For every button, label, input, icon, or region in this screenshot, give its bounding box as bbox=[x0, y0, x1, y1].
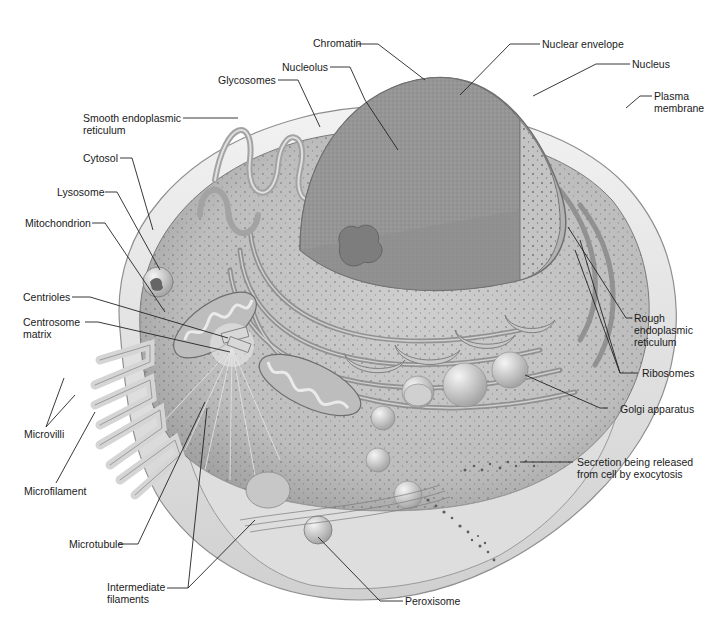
label-nucleus: Nucleus bbox=[632, 58, 670, 70]
label-intermediate-filaments: Intermediate filaments bbox=[107, 581, 165, 605]
nucleolus-blob bbox=[339, 225, 382, 266]
label-chromatin: Chromatin bbox=[313, 37, 361, 49]
label-glycosomes: Glycosomes bbox=[218, 74, 276, 86]
label-plasma-membrane-line2: membrane bbox=[654, 102, 704, 114]
lysosome bbox=[143, 267, 173, 297]
label-intermediate-filaments-line2: filaments bbox=[107, 593, 149, 605]
label-rough-er-line1: Rough bbox=[634, 312, 665, 324]
label-nucleolus: Nucleolus bbox=[282, 61, 328, 73]
label-golgi-apparatus: Golgi apparatus bbox=[620, 403, 694, 415]
cell-diagram: Chromatin Nuclear envelope Nucleolus Nuc… bbox=[0, 0, 715, 624]
label-centrosome-matrix-line2: matrix bbox=[23, 328, 52, 340]
label-centrioles: Centrioles bbox=[23, 291, 70, 303]
label-plasma-membrane: Plasma membrane bbox=[654, 90, 704, 114]
label-smooth-er: Smooth endoplasmic reticulum bbox=[83, 112, 181, 136]
label-centrosome-matrix-line1: Centrosome bbox=[23, 316, 80, 328]
label-nuclear-envelope: Nuclear envelope bbox=[542, 38, 624, 50]
label-smooth-er-line2: reticulum bbox=[83, 124, 126, 136]
label-plasma-membrane-line1: Plasma bbox=[654, 90, 689, 102]
label-cytosol: Cytosol bbox=[83, 152, 118, 164]
cell-illustration bbox=[0, 0, 715, 624]
label-secretion: Secretion being released from cell by ex… bbox=[577, 456, 693, 480]
label-mitochondrion: Mitochondrion bbox=[25, 217, 91, 229]
label-ribosomes: Ribosomes bbox=[642, 367, 695, 379]
label-rough-er-line3: reticulum bbox=[634, 336, 677, 348]
label-secretion-line2: from cell by exocytosis bbox=[577, 468, 683, 480]
label-microvilli: Microvilli bbox=[24, 428, 64, 440]
label-microfilament: Microfilament bbox=[24, 485, 86, 497]
label-rough-er-line2: endoplasmic bbox=[634, 324, 693, 336]
label-intermediate-filaments-line1: Intermediate bbox=[107, 581, 165, 593]
label-centrosome-matrix: Centrosome matrix bbox=[23, 316, 80, 340]
label-secretion-line1: Secretion being released bbox=[577, 456, 693, 468]
label-lysosome: Lysosome bbox=[57, 186, 104, 198]
label-smooth-er-line1: Smooth endoplasmic bbox=[83, 112, 181, 124]
label-rough-er: Rough endoplasmic reticulum bbox=[634, 312, 693, 348]
label-microtubule: Microtubule bbox=[69, 538, 123, 550]
label-peroxisome: Peroxisome bbox=[405, 595, 460, 607]
